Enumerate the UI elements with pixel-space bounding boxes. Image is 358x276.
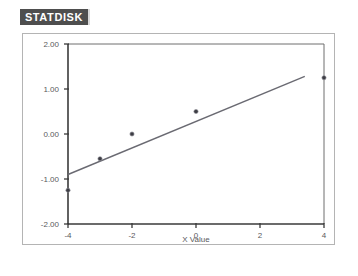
data-point [98, 157, 102, 161]
x-tick-label: 4 [322, 231, 327, 240]
x-axis-title: X Value [182, 235, 210, 244]
data-point [66, 188, 70, 192]
regression-line [68, 76, 305, 174]
data-point [194, 109, 198, 113]
plot-frame [68, 44, 324, 224]
data-point [322, 76, 326, 80]
y-tick-label: -1.00 [41, 175, 60, 184]
x-tick-label: 2 [258, 231, 263, 240]
statdisk-badge-label: STATDISK [25, 12, 83, 23]
figure-panel: 2.001.000.00-1.00-2.00 -4-2024 X Value [22, 33, 335, 245]
y-axis-ticks: 2.001.000.00-1.00-2.00 [41, 40, 69, 229]
x-tick-label: -2 [128, 231, 136, 240]
data-point [130, 132, 134, 136]
y-tick-label: 2.00 [43, 40, 59, 49]
data-points [66, 76, 326, 193]
y-tick-label: 1.00 [43, 85, 59, 94]
y-tick-label: -2.00 [41, 220, 60, 229]
y-tick-label: 0.00 [43, 130, 59, 139]
statdisk-badge: STATDISK [20, 9, 90, 25]
regression-line-path [68, 76, 305, 174]
chart-canvas: 2.001.000.00-1.00-2.00 -4-2024 X Value [23, 34, 336, 246]
axes [68, 44, 324, 224]
scatter-chart: 2.001.000.00-1.00-2.00 -4-2024 X Value [23, 34, 336, 246]
x-tick-label: -4 [64, 231, 72, 240]
